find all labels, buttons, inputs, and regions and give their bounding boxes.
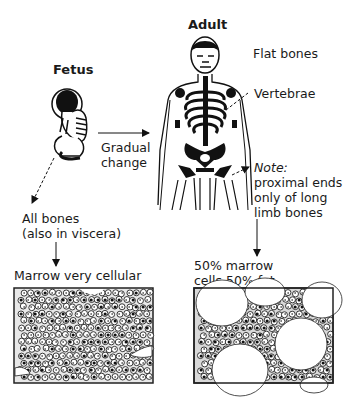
diagram-drawing (0, 0, 360, 399)
adult-skeleton-icon (158, 37, 252, 210)
fetal-marrow-histology (14, 288, 154, 383)
fetus-skeleton-icon (52, 89, 87, 159)
adult-marrow-histology (194, 278, 342, 396)
fetus-to-all-bones-arrow (32, 158, 54, 203)
